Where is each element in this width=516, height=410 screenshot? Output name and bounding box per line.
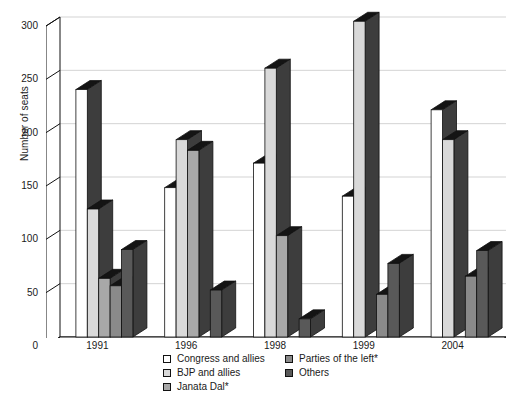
legend-item-label: Janata Dal* [177, 382, 229, 392]
y-tick-label: 0 [10, 341, 38, 351]
plot-svg [46, 6, 508, 338]
bar-chart: Number of seats 300250200150100500 19911… [0, 0, 516, 410]
legend-column-1: Congress and alliesBJP and alliesJanata … [163, 352, 265, 394]
legend-item[interactable]: Parties of the left* [285, 352, 378, 365]
legend-item[interactable]: BJP and allies [163, 366, 265, 379]
legend-item-label: Congress and allies [177, 354, 265, 364]
y-tick-label: 300 [10, 21, 38, 31]
y-tick-label: 150 [10, 181, 38, 191]
legend-swatch-icon [285, 369, 293, 377]
x-tick-label: 1999 [329, 340, 399, 352]
y-tick-label: 100 [10, 234, 38, 244]
legend: Congress and alliesBJP and alliesJanata … [163, 352, 463, 394]
x-tick-label: 1998 [240, 340, 310, 352]
legend-item-label: BJP and allies [177, 368, 240, 378]
legend-swatch-icon [163, 369, 171, 377]
legend-item[interactable]: Others [285, 366, 378, 379]
y-tick-label: 200 [10, 128, 38, 138]
y-axis-tick-labels: 300250200150100500 [8, 0, 38, 340]
legend-item[interactable]: Congress and allies [163, 352, 265, 365]
legend-swatch-icon [163, 355, 171, 363]
y-tick-label: 50 [10, 288, 38, 298]
y-tick-label: 250 [10, 74, 38, 84]
legend-swatch-icon [285, 355, 293, 363]
plot-area [46, 6, 508, 338]
x-tick-label: 1996 [151, 340, 221, 352]
legend-item-label: Parties of the left* [299, 354, 378, 364]
legend-item-label: Others [299, 368, 329, 378]
legend-item[interactable]: Janata Dal* [163, 380, 265, 393]
x-tick-label: 2004 [418, 340, 488, 352]
legend-swatch-icon [163, 383, 171, 391]
x-tick-label: 1991 [62, 340, 132, 352]
chart-footnote [44, 402, 504, 410]
legend-column-2: Parties of the left*Others [285, 352, 378, 380]
